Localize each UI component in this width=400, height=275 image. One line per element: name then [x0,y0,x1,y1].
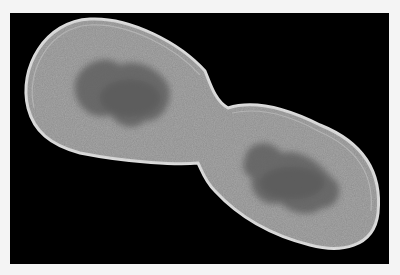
bacterium-cell [10,13,389,264]
micrograph-frame [10,13,389,264]
micrograph [10,13,389,264]
